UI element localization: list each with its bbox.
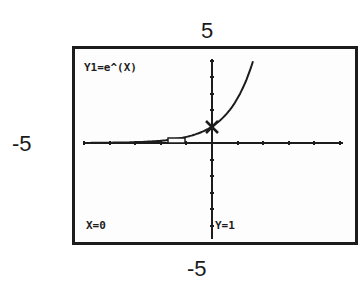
- window-xmin-label: -5: [12, 133, 32, 155]
- calculator-graph-screen: Y1=e^(X) X=0 Y=1: [72, 46, 358, 245]
- window-ymin-label: -5: [187, 258, 207, 280]
- function-label: Y1=e^(X): [84, 61, 137, 74]
- function-curve-smooth: [135, 61, 259, 143]
- graph-canvas: Y1=e^(X) X=0 Y=1: [75, 49, 355, 242]
- trace-y-label: Y=1: [215, 219, 235, 232]
- trace-box: [168, 138, 185, 143]
- trace-x-label: X=0: [86, 219, 106, 232]
- window-ymax-label: 5: [201, 20, 213, 42]
